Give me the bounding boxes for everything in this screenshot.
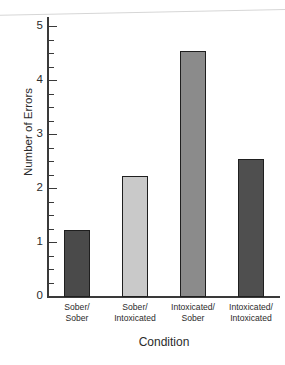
y-tick-label: 1	[30, 236, 43, 248]
bar-chart-figure: 012345 Sober/SoberSober/IntoxicatedIntox…	[0, 0, 285, 365]
y-axis-title: Number of Errors	[22, 57, 34, 207]
bar	[64, 230, 90, 297]
x-category-label-line1: Intoxicated/	[214, 302, 285, 313]
bar	[122, 176, 148, 297]
bar	[180, 51, 206, 297]
plot-area	[48, 18, 280, 297]
x-axis-title: Condition	[48, 336, 280, 349]
y-tick-label: 0	[30, 290, 43, 302]
bar	[238, 159, 264, 297]
y-tick-label: 5	[30, 20, 43, 32]
x-category-label-line2: Intoxicated	[214, 313, 285, 324]
x-category-label: Intoxicated/Intoxicated	[214, 302, 285, 323]
